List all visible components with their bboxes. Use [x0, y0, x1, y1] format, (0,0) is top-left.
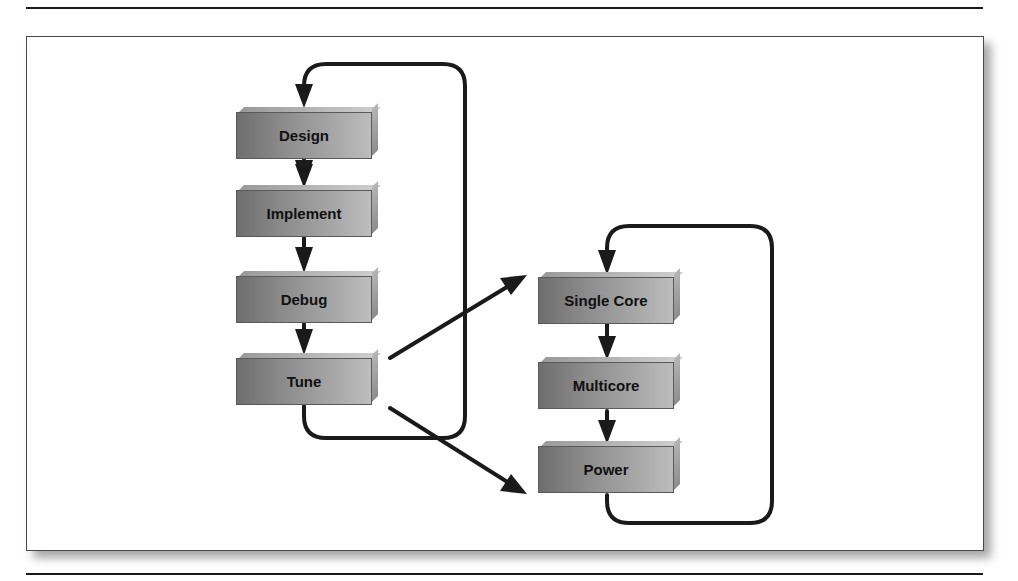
step-single-core: Single Core — [538, 277, 674, 324]
step-label: Tune — [287, 373, 322, 390]
step-label: Single Core — [564, 292, 647, 309]
top-rule — [26, 7, 983, 9]
figure-frame — [26, 36, 984, 551]
step-implement: Implement — [236, 190, 372, 237]
bottom-rule — [26, 573, 983, 575]
step-tune: Tune — [236, 358, 372, 405]
step-label: Debug — [281, 291, 328, 308]
step-debug: Debug — [236, 276, 372, 323]
step-multicore: Multicore — [538, 362, 674, 409]
step-label: Design — [279, 127, 329, 144]
step-power: Power — [538, 446, 674, 493]
step-label: Implement — [266, 205, 341, 222]
step-label: Power — [583, 461, 628, 478]
step-label: Multicore — [573, 377, 640, 394]
step-design: Design — [236, 112, 372, 159]
